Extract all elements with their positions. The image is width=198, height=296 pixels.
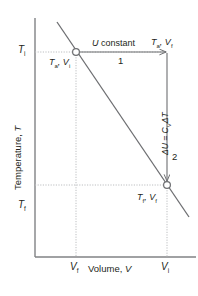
marker-initial-state bbox=[73, 49, 80, 56]
x-tick-label-right: Vi bbox=[161, 262, 169, 275]
u-constant-annotation: U constant bbox=[92, 39, 135, 48]
path-2-number: 2 bbox=[172, 152, 177, 162]
x-tick-label-left: Vf bbox=[70, 262, 78, 275]
thermodynamics-diagram: Ti Tf Temperature, T Vf Vi Volume, V U c… bbox=[0, 0, 198, 296]
state-label-initial: Ta, Vi bbox=[49, 58, 70, 69]
y-tick-label-lower: Tf bbox=[18, 200, 26, 213]
y-axis-title: Temperature, T bbox=[13, 126, 23, 190]
path-1-number: 1 bbox=[118, 56, 123, 66]
state-label-top-right: Ta, Vf bbox=[151, 38, 173, 49]
delta-u-annotation: ΔU = CVΔT bbox=[161, 112, 172, 155]
state-label-final: Tf, Vf bbox=[137, 193, 157, 204]
x-axis-title: Volume, V bbox=[88, 264, 131, 274]
marker-final-state bbox=[164, 182, 171, 189]
y-tick-label-upper: Ti bbox=[18, 45, 26, 58]
